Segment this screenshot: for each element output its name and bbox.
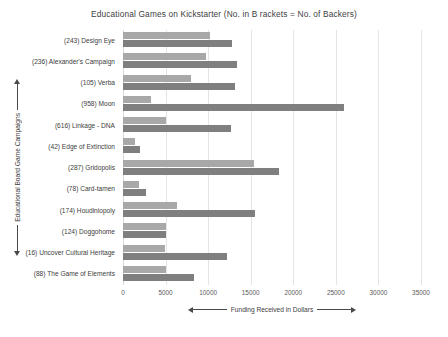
x-axis-tick-labels: 05000100001500020000250003000035000 <box>0 289 448 301</box>
x-tick-label: 10000 <box>199 289 217 296</box>
x-axis-arrow-right-icon <box>317 307 356 313</box>
bar-row <box>123 200 421 221</box>
bar <box>123 75 191 82</box>
bar-row <box>123 221 421 242</box>
y-tick-label: (958) Moon <box>0 100 115 107</box>
bar <box>123 245 165 252</box>
x-axis-arrow-left-icon <box>188 307 227 313</box>
bar-row <box>123 51 421 72</box>
bar <box>123 202 177 209</box>
bar-row <box>123 73 421 94</box>
x-axis-title: Funding Received in Dollars <box>231 306 313 313</box>
bar <box>123 160 254 167</box>
bar-row <box>123 94 421 115</box>
bar <box>123 83 235 90</box>
bar <box>123 40 232 47</box>
bar <box>123 189 146 196</box>
y-axis-tick-labels: (243) Design Eye(236) Alexander's Campai… <box>0 30 119 285</box>
bar <box>123 125 231 132</box>
bar <box>123 274 194 281</box>
bar-row <box>123 115 421 136</box>
bar <box>123 32 210 39</box>
y-tick-label: (236) Alexander's Campaign <box>0 58 115 65</box>
y-tick-label: (243) Design Eye <box>0 37 115 44</box>
bar <box>123 61 237 68</box>
y-tick-label: (105) Verba <box>0 79 115 86</box>
x-tick-label: 0 <box>121 289 125 296</box>
bar-row <box>123 264 421 285</box>
bar-rows <box>123 30 421 285</box>
y-tick-label: (124) Doggohome <box>0 228 115 235</box>
plot-area <box>123 30 421 285</box>
x-axis-title-group: Funding Received in Dollars <box>123 306 421 313</box>
bar <box>123 210 255 217</box>
y-tick-label: (287) Gridopolis <box>0 164 115 171</box>
bar <box>123 96 151 103</box>
bar <box>123 181 139 188</box>
y-tick-label: (88) The Game of Elements <box>0 270 115 277</box>
y-tick-label: (42) Edge of Extinction <box>0 143 115 150</box>
bar-row <box>123 179 421 200</box>
x-tick-label: 25000 <box>327 289 345 296</box>
bar-row <box>123 243 421 264</box>
y-tick-label: (174) Houdiniopoly <box>0 207 115 214</box>
bar <box>123 266 166 273</box>
bar <box>123 168 279 175</box>
bar <box>123 104 344 111</box>
y-tick-label: (616) Linkage - DNA <box>0 122 115 129</box>
y-tick-label: (78) Card-tamen <box>0 185 115 192</box>
bar <box>123 223 166 230</box>
x-tick-label: 15000 <box>242 289 260 296</box>
bar-row <box>123 30 421 51</box>
x-tick-label: 35000 <box>412 289 430 296</box>
y-tick-label: (16) Uncover Cultural Heritage <box>0 249 115 256</box>
x-tick-label: 5000 <box>158 289 172 296</box>
gridline <box>421 30 422 285</box>
bar <box>123 231 166 238</box>
bar-chart: Educational Games on Kickstarter (No. in… <box>0 0 448 337</box>
bar-row <box>123 136 421 157</box>
bar <box>123 253 227 260</box>
bar <box>123 138 135 145</box>
bar <box>123 53 206 60</box>
chart-title: Educational Games on Kickstarter (No. in… <box>0 9 448 19</box>
x-tick-label: 30000 <box>370 289 388 296</box>
bar <box>123 117 166 124</box>
bar <box>123 146 140 153</box>
bar-row <box>123 158 421 179</box>
x-tick-label: 20000 <box>284 289 302 296</box>
